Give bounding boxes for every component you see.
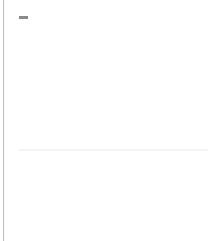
chart-plot	[0, 0, 208, 241]
